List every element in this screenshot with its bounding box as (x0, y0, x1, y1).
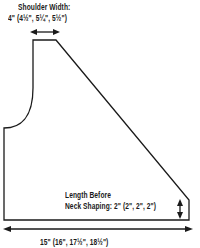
neck-length-arrow (177, 199, 183, 219)
shoulder-width-arrow (30, 29, 60, 35)
bottom-width-arrow (3, 226, 193, 232)
neck-length-label-line2: Neck Shaping: 2" (2", 2", 2") (65, 201, 156, 211)
bottom-width-label: 15" (16", 17½", 18½") (40, 237, 108, 247)
shoulder-width-title: Shoulder Width: (18, 2, 70, 12)
shoulder-width-value: 4" (4½", 5¼", 5½") (8, 13, 67, 23)
neck-length-label-line1: Length Before (65, 190, 111, 200)
